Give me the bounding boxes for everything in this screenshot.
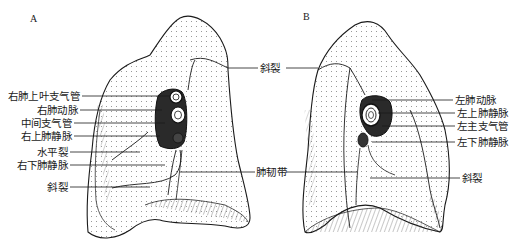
label-right-inferior-pulmonary-vein: 右下肺静脉 <box>17 159 69 171</box>
panel-letter-b: B <box>303 11 310 22</box>
lung-illustration <box>0 0 522 247</box>
right-lung-drawing <box>87 16 250 238</box>
label-right-superior-pulmonary-vein: 右上肺静脉 <box>21 130 73 142</box>
label-oblique-fissure-b: 斜裂 <box>462 172 483 184</box>
label-oblique-fissure-center: 斜裂 <box>260 62 281 74</box>
label-left-pulmonary-artery: 左肺动脉 <box>455 94 496 106</box>
panel-letter-a: A <box>30 13 37 24</box>
label-left-inferior-pulmonary-vein: 左下肺静脉 <box>457 136 509 148</box>
label-horizontal-fissure: 水平裂 <box>37 146 68 158</box>
lung-anatomy-figure: A B 右肺上叶支气管 右肺动脉 中间支气管 右上肺静脉 水平裂 右下肺静脉 斜… <box>0 0 522 247</box>
right-hilum <box>155 89 187 149</box>
label-oblique-fissure-a: 斜裂 <box>47 181 68 193</box>
label-right-upper-lobe-bronchus: 右肺上叶支气管 <box>8 90 80 102</box>
label-left-superior-pulmonary-vein: 左上肺静脉 <box>457 107 509 119</box>
left-lung-drawing <box>303 22 450 233</box>
label-right-pulmonary-artery: 右肺动脉 <box>37 104 78 116</box>
label-pulmonary-ligament: 肺韧带 <box>256 166 287 178</box>
label-intermediate-bronchus: 中间支气管 <box>21 117 73 129</box>
label-left-main-bronchus: 左主支气管 <box>457 120 509 132</box>
